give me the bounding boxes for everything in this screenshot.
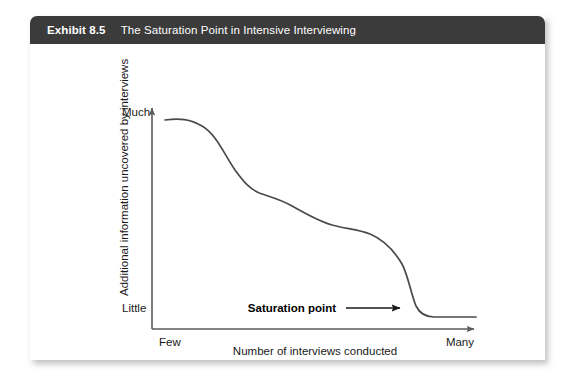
saturation-curve-line [165,119,476,317]
y-axis-tick-much: Much [122,106,150,118]
exhibit-panel: Exhibit 8.5 The Saturation Point in Inte… [30,16,545,360]
saturation-curve-chart: Additional information uncovered by inte… [30,44,545,360]
y-axis-title: Additional information uncovered by inte… [118,59,130,296]
x-axis-tick-many: Many [446,336,474,348]
exhibit-title-label: The Saturation Point in Intensive Interv… [121,24,356,36]
x-axis-tick-few: Few [159,336,181,348]
y-axis-tick-little: Little [122,302,146,314]
saturation-point-annotation-label: Saturation point [248,302,336,314]
exhibit-number-label: Exhibit 8.5 [47,24,106,36]
x-axis-title: Number of interviews conducted [233,345,397,357]
exhibit-header-bar: Exhibit 8.5 The Saturation Point in Inte… [30,16,545,44]
chart-figure: Additional information uncovered by inte… [30,44,545,360]
